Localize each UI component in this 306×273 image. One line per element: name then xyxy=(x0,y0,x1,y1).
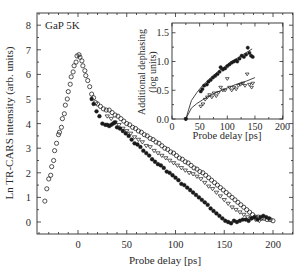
chart: 050100150200012345678 GaP 5K Probe delay… xyxy=(0,0,306,273)
data-point xyxy=(68,82,72,86)
data-point xyxy=(98,114,102,118)
data-point xyxy=(71,70,75,74)
x-tick-label: 150 xyxy=(216,239,232,250)
data-point xyxy=(109,117,113,120)
y-tick-label: 4 xyxy=(26,119,32,130)
data-point xyxy=(74,60,78,64)
data-point xyxy=(177,178,181,182)
data-point xyxy=(83,69,87,73)
data-point xyxy=(80,59,84,63)
inset-y-tick-label: 1.0 xyxy=(157,56,170,67)
data-point xyxy=(246,46,249,49)
inset-frame xyxy=(172,23,283,119)
data-point xyxy=(236,60,239,63)
main-annotation: GaP 5K xyxy=(45,19,80,31)
data-point xyxy=(69,75,73,79)
data-point xyxy=(201,87,204,90)
y-tick-label: 0 xyxy=(26,217,31,228)
data-point xyxy=(52,158,56,162)
data-point xyxy=(81,64,85,68)
y-tick-label: 6 xyxy=(26,69,31,80)
data-point xyxy=(92,102,96,106)
inset-y-tick-label: 1.5 xyxy=(157,27,170,38)
data-point xyxy=(199,178,203,181)
data-point xyxy=(95,109,99,113)
inset-y-tick-label: 0.0 xyxy=(157,114,170,125)
data-point xyxy=(84,74,88,78)
data-point xyxy=(187,171,191,174)
data-point xyxy=(56,133,60,137)
data-point xyxy=(43,199,47,203)
data-point xyxy=(214,191,218,194)
data-point xyxy=(210,187,214,190)
inset-x-tick-label: 0 xyxy=(170,121,175,132)
data-point xyxy=(90,97,94,101)
data-point xyxy=(54,141,58,145)
inset-y-axis-label-line2: (log units) xyxy=(147,51,159,92)
x-tick-label: 50 xyxy=(122,239,133,250)
data-point xyxy=(88,85,92,89)
data-point xyxy=(50,165,54,169)
data-point xyxy=(148,146,152,149)
main-x-axis-label: Probe delay [ps] xyxy=(129,254,201,266)
inset-y-axis-label-line1: Additional dephasing xyxy=(136,29,147,115)
y-tick-label: 3 xyxy=(26,143,31,154)
data-point xyxy=(203,181,207,184)
x-tick-label: 200 xyxy=(265,239,281,250)
y-tick-label: 5 xyxy=(26,94,31,105)
data-point xyxy=(65,97,69,101)
data-point xyxy=(57,130,61,134)
data-point xyxy=(86,78,90,82)
data-point xyxy=(53,149,57,153)
data-point xyxy=(59,125,63,129)
x-tick-label: 100 xyxy=(168,239,184,250)
data-point xyxy=(222,199,226,202)
data-point xyxy=(251,55,254,58)
data-point xyxy=(162,166,166,170)
inset-y-tick-label: 0.5 xyxy=(157,85,170,96)
inset-x-axis-label: Probe delay [ps] xyxy=(193,130,262,141)
y-tick-label: 2 xyxy=(26,168,31,179)
data-point xyxy=(226,202,230,205)
data-point xyxy=(139,145,143,149)
data-point xyxy=(49,173,53,177)
data-point xyxy=(63,103,67,107)
data-point xyxy=(267,216,271,220)
y-tick-label: 8 xyxy=(26,20,31,31)
data-point xyxy=(130,138,134,142)
inset-x-tick-label: 200 xyxy=(275,121,290,132)
data-point xyxy=(140,141,144,144)
data-point xyxy=(144,144,148,147)
main-y-axis-label: Ln TR-CARS intensity (arb. units) xyxy=(3,46,16,199)
x-tick-label: 0 xyxy=(75,239,80,250)
data-point xyxy=(147,154,151,158)
data-point xyxy=(60,117,64,121)
data-point xyxy=(206,203,210,207)
data-point xyxy=(218,195,222,198)
data-point xyxy=(66,90,70,94)
data-point xyxy=(45,187,49,191)
y-tick-label: 1 xyxy=(26,192,31,203)
data-point xyxy=(62,112,66,116)
y-tick-label: 7 xyxy=(26,45,31,56)
